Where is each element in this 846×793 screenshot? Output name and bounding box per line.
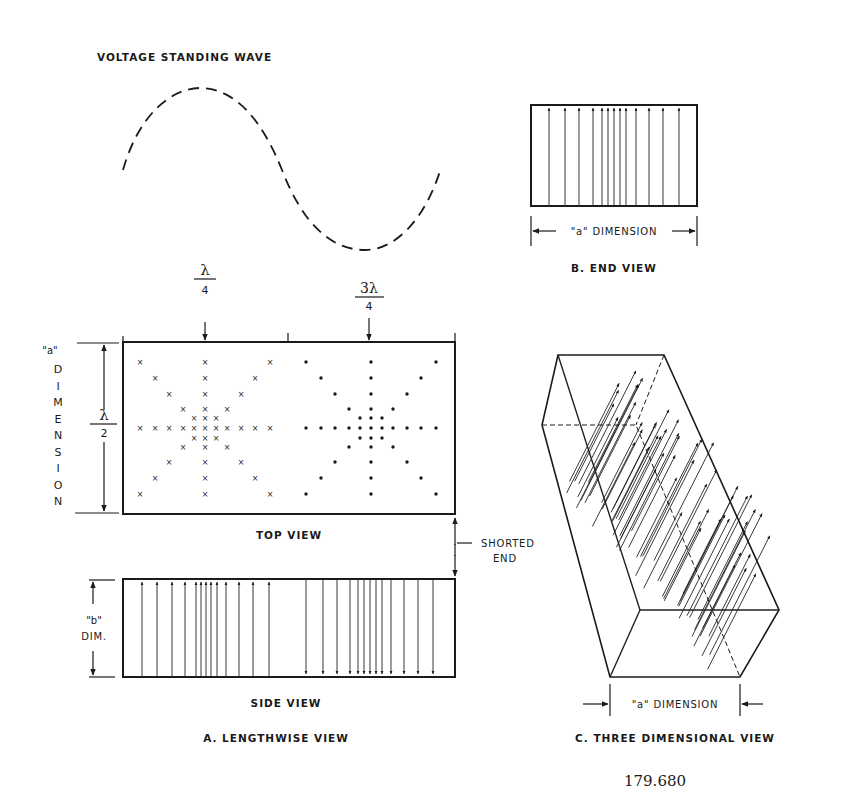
field-into-page-icon: × <box>191 424 198 433</box>
quarter-wave-denominator: 4 <box>202 284 209 297</box>
half-wave-numerator: λ <box>99 406 109 424</box>
field-arrow-3d-icon <box>602 430 642 509</box>
field-into-page-icon: × <box>213 414 220 423</box>
field-out-of-page-icon <box>333 460 336 463</box>
top-view-caption: TOP VIEW <box>256 529 322 541</box>
field-out-of-page-icon <box>319 426 322 429</box>
field-arrow-3d-icon <box>616 469 656 547</box>
field-out-of-page-icon <box>347 445 350 448</box>
field-out-of-page-icon <box>304 360 307 363</box>
top-view-field-into-page: ××××××××××××××××××××××××××××××××××××××××… <box>137 358 274 499</box>
field-into-page-icon: × <box>202 434 209 443</box>
field-into-page-icon: × <box>252 474 259 483</box>
field-into-page-icon: × <box>152 374 159 383</box>
field-into-page-icon: × <box>180 405 187 414</box>
field-arrow-3d-icon <box>619 436 661 520</box>
field-out-of-page-icon <box>434 492 437 495</box>
field-arrow-3d-icon <box>679 519 729 618</box>
a-dimension-quote-label: "a" <box>42 345 57 356</box>
dimension-letter: O <box>54 479 63 492</box>
field-arrow-3d-icon <box>613 429 666 535</box>
b-dimension-quote-label: "b" <box>86 615 102 626</box>
field-into-page-icon: × <box>137 490 144 499</box>
quarter-wave-numerator: λ <box>200 261 210 279</box>
field-arrow-3d-icon <box>643 439 702 556</box>
dimension-letter: E <box>55 413 62 426</box>
three-d-outline <box>542 355 779 677</box>
field-into-page-icon: × <box>166 458 173 467</box>
field-arrow-3d-icon <box>585 402 636 503</box>
shorted-end-indicator: SHORTED END <box>455 518 535 576</box>
shorted-end-label-line2: END <box>493 553 517 564</box>
b-dimension-dim-label: DIM. <box>81 631 107 642</box>
field-arrow-3d-icon <box>637 478 677 557</box>
shorted-end-label-line1: SHORTED <box>481 538 535 549</box>
three-quarter-wave-denominator: 4 <box>366 300 373 313</box>
field-out-of-page-icon <box>391 407 394 410</box>
field-into-page-icon: × <box>202 414 209 423</box>
dimension-letter: I <box>56 462 59 475</box>
field-arrow-3d-icon <box>708 574 756 670</box>
side-view-box <box>123 579 455 677</box>
field-out-of-page-icon <box>358 426 361 429</box>
field-out-of-page-icon <box>333 392 336 395</box>
field-into-page-icon: × <box>202 374 209 383</box>
field-arrow-3d-icon <box>654 443 714 561</box>
field-arrow-3d-icon <box>578 417 618 497</box>
dimension-letter: N <box>54 429 62 442</box>
field-out-of-page-icon <box>369 445 372 448</box>
end-view-field-arrows <box>549 108 679 206</box>
field-out-of-page-icon <box>391 445 394 448</box>
field-into-page-icon: × <box>202 405 209 414</box>
field-out-of-page-icon <box>347 426 350 429</box>
field-into-page-icon: × <box>238 424 245 433</box>
field-into-page-icon: × <box>202 358 209 367</box>
field-into-page-icon: × <box>224 443 231 452</box>
field-out-of-page-icon <box>369 492 372 495</box>
field-into-page-icon: × <box>137 424 144 433</box>
field-out-of-page-icon <box>369 360 372 363</box>
field-into-page-icon: × <box>202 474 209 483</box>
field-out-of-page-icon <box>419 426 422 429</box>
field-into-page-icon: × <box>166 424 173 433</box>
field-out-of-page-icon <box>369 376 372 379</box>
field-out-of-page-icon <box>358 416 361 419</box>
dimension-letter: D <box>54 363 62 376</box>
field-into-page-icon: × <box>202 390 209 399</box>
field-arrow-3d-icon <box>702 568 746 656</box>
top-view-field-out-of-page <box>304 360 437 495</box>
field-into-page-icon: × <box>202 424 209 433</box>
field-into-page-icon: × <box>202 443 209 452</box>
field-arrow-3d-icon <box>660 470 716 582</box>
field-out-of-page-icon <box>405 460 408 463</box>
field-out-of-page-icon <box>319 476 322 479</box>
field-out-of-page-icon <box>304 492 307 495</box>
field-into-page-icon: × <box>166 390 173 399</box>
field-arrow-3d-icon <box>692 531 745 636</box>
field-into-page-icon: × <box>267 424 274 433</box>
field-out-of-page-icon <box>391 426 394 429</box>
field-out-of-page-icon <box>369 392 372 395</box>
field-arrow-3d-icon <box>683 519 721 594</box>
waveguide-diagram: VOLTAGE STANDING WAVE "a" DIMENSION B. E… <box>0 0 846 793</box>
dimension-letter: S <box>55 446 62 459</box>
field-out-of-page-icon <box>419 476 422 479</box>
dimension-letter: I <box>56 380 59 393</box>
field-arrow-3d-icon <box>690 495 752 618</box>
field-arrow-3d-icon <box>612 447 649 521</box>
field-out-of-page-icon <box>369 426 372 429</box>
three-d-dimension-label: "a" DIMENSION <box>632 699 719 710</box>
side-view-field-arrows <box>142 580 433 677</box>
side-view-caption: SIDE VIEW <box>251 697 322 709</box>
field-into-page-icon: × <box>202 458 209 467</box>
field-into-page-icon: × <box>224 405 231 414</box>
field-out-of-page-icon <box>369 476 372 479</box>
three-quarter-wave-numerator: 3λ <box>360 280 378 296</box>
field-into-page-icon: × <box>137 358 144 367</box>
field-into-page-icon: × <box>252 374 259 383</box>
field-into-page-icon: × <box>267 490 274 499</box>
field-into-page-icon: × <box>152 424 159 433</box>
field-into-page-icon: × <box>213 424 220 433</box>
field-arrow-3d-icon <box>590 415 631 496</box>
field-out-of-page-icon <box>369 416 372 419</box>
